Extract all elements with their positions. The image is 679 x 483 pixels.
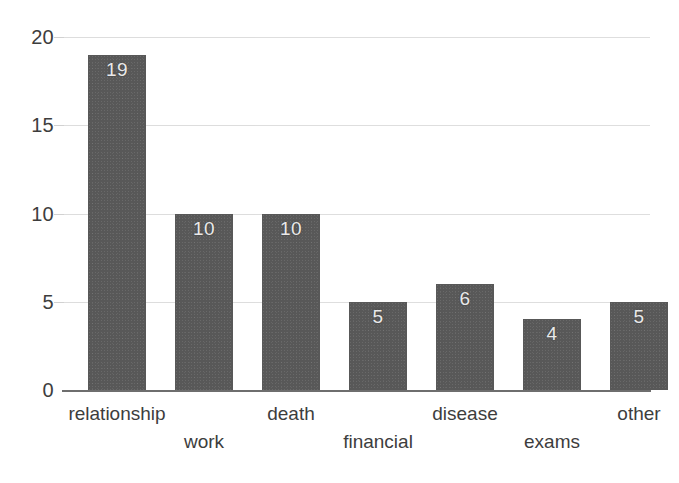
x-axis-label-relationship: relationship [68,403,165,425]
y-axis-tick-label: 15 [8,115,54,135]
gridline-15 [63,125,650,126]
bar-value-label: 10 [262,219,320,239]
bar-exams: 4 [523,319,581,390]
bar-value-label: 5 [610,307,668,327]
bar-other: 5 [610,302,668,390]
bar-value-label: 4 [523,324,581,344]
bar-chart: 20 15 10 5 0 19 10 10 5 6 4 5 [0,0,679,483]
bar-death: 10 [262,214,320,391]
x-axis-label-other: other [617,403,660,425]
bar-financial: 5 [349,302,407,390]
y-axis-tick-label: 5 [8,292,54,312]
y-axis-tick-label: 0 [8,380,54,400]
y-axis-tick-label: 20 [8,27,54,47]
x-axis-label-death: death [267,403,315,425]
plot-area: 19 10 10 5 6 4 5 [63,37,650,390]
bar-value-label: 5 [349,307,407,327]
bar-work: 10 [175,214,233,391]
x-axis-label-financial: financial [343,431,413,453]
bar-value-label: 10 [175,219,233,239]
y-axis-tick-label: 10 [8,204,54,224]
bar-value-label: 6 [436,289,494,309]
bar-relationship: 19 [88,55,146,390]
bar-value-label: 19 [88,60,146,80]
gridline-10 [63,214,650,215]
gridline-20 [63,37,650,38]
bar-disease: 6 [436,284,494,390]
x-axis: relationship work death financial diseas… [63,390,650,483]
y-axis: 20 15 10 5 0 [0,37,54,390]
x-axis-label-disease: disease [432,403,498,425]
x-axis-label-exams: exams [524,431,580,453]
x-axis-label-work: work [184,431,224,453]
